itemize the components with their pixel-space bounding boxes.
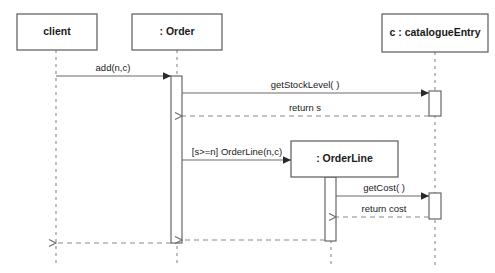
message-msg-create-orderline	[182, 156, 291, 164]
activation-bar-catalogueentry	[429, 91, 441, 116]
message-msg-return-client	[49, 240, 171, 247]
uml-sequence-diagram: client: Order: OrderLinec : catalogueEnt…	[0, 0, 495, 273]
arrowhead-filled	[163, 72, 171, 80]
message-label-msg-return-cost: return cost	[362, 203, 407, 214]
participant-catalogueentry[interactable]: c : catalogueEntry	[382, 14, 488, 52]
participant-orderline[interactable]: : OrderLine	[291, 141, 398, 177]
message-label-msg-getstocklevel: getStockLevel( )	[271, 79, 340, 90]
participant-label: c : catalogueEntry	[389, 26, 480, 38]
message-msg-return-cost	[329, 214, 429, 221]
message-label-msg-add: add(n,c)	[96, 62, 131, 73]
message-msg-return-s	[175, 113, 429, 120]
arrowhead-filled	[421, 192, 429, 200]
activation-bar-orderline	[325, 177, 336, 241]
arrowhead-open	[49, 240, 56, 247]
message-msg-getstocklevel	[182, 89, 429, 97]
arrowhead-filled	[283, 156, 291, 164]
participant-label: : Order	[159, 25, 194, 37]
message-msg-getcost	[336, 192, 429, 200]
activation-bar-order	[171, 76, 182, 243]
participant-label: client	[43, 25, 71, 37]
participant-client[interactable]: client	[17, 14, 97, 50]
message-msg-return-orderline	[175, 237, 325, 244]
message-msg-add	[56, 72, 171, 80]
diagram-canvas: client: Order: OrderLinec : catalogueEnt…	[0, 0, 495, 273]
activation-bar-catalogueentry	[429, 193, 441, 219]
participant-order[interactable]: : Order	[132, 14, 222, 50]
message-label-msg-create-orderline: [s>=n] OrderLine(n,c)	[192, 146, 282, 157]
message-label-msg-getcost: getCost( )	[363, 182, 405, 193]
message-labels-layer: add(n,c)getStockLevel( )return s[s>=n] O…	[96, 62, 407, 214]
arrowhead-filled	[421, 89, 429, 97]
participant-label: : OrderLine	[316, 152, 373, 164]
message-label-msg-return-s: return s	[289, 102, 321, 113]
